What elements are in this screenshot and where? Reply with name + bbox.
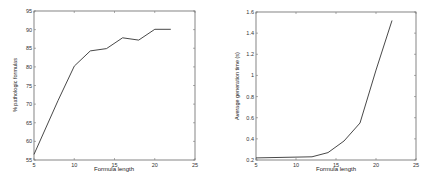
x-tick-label: 20 xyxy=(152,162,158,168)
y-tick-label: 1.4 xyxy=(246,30,254,36)
y-tick-label: 1.2 xyxy=(246,51,254,57)
y-tick-label: 1.6 xyxy=(246,9,254,15)
y-tick-label: 0.8 xyxy=(246,94,254,100)
y-tick-label: 1 xyxy=(251,72,254,78)
y-tick-label: 65 xyxy=(26,120,32,126)
y-tick-label: 95 xyxy=(26,8,32,14)
x-tick-label: 10 xyxy=(293,162,299,168)
left-series-line xyxy=(34,29,171,154)
y-tick-label: 75 xyxy=(26,83,32,89)
x-tick-label: 25 xyxy=(192,162,198,168)
left-y-axis-label: % pathologic formulas xyxy=(12,58,18,112)
right-axes-box xyxy=(256,12,416,160)
right-y-axis-label: Average generation time (s) xyxy=(234,52,240,120)
left-axes-box xyxy=(34,11,195,160)
y-tick-label: 55 xyxy=(26,157,32,163)
y-tick-label: 70 xyxy=(26,101,32,107)
right-series-line xyxy=(256,21,392,158)
y-tick-label: 85 xyxy=(26,45,32,51)
x-tick-label: 5 xyxy=(254,162,257,168)
right-chart: 5101520250.20.40.60.811.21.41.6 Formula … xyxy=(234,9,419,172)
y-tick-label: 80 xyxy=(26,64,32,70)
y-tick-label: 60 xyxy=(26,138,32,144)
x-tick-label: 25 xyxy=(413,162,419,168)
y-tick-label: 0.4 xyxy=(246,136,254,142)
y-tick-label: 90 xyxy=(26,27,32,33)
left-x-axis-label: Formula length xyxy=(94,166,134,172)
x-tick-label: 5 xyxy=(32,162,35,168)
y-tick-label: 0.2 xyxy=(246,157,254,163)
x-tick-label: 10 xyxy=(71,162,77,168)
left-chart: 510152025556065707580859095 Formula leng… xyxy=(12,8,198,172)
figure: 510152025556065707580859095 Formula leng… xyxy=(0,0,432,186)
y-tick-label: 0.6 xyxy=(246,115,254,121)
x-tick-label: 20 xyxy=(373,162,379,168)
right-x-axis-label: Formula length xyxy=(316,166,356,172)
